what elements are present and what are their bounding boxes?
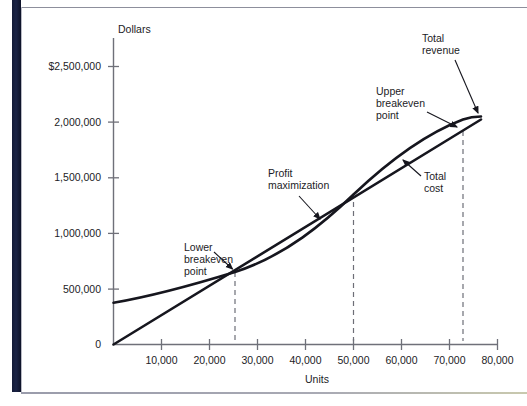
profit-max-leader	[299, 196, 320, 219]
breakeven-chart: $2,500,000 2,000,000 1,500,000 1,000,000…	[0, 0, 527, 406]
reference-lines	[235, 131, 463, 341]
upper-breakeven-line3: point	[376, 109, 399, 121]
series-total-cost	[114, 117, 482, 303]
y-tick-label-1500000: 1,500,000	[54, 171, 101, 183]
annotation-upper-breakeven: Upper breakeven point	[376, 85, 457, 127]
annotation-profit-maximization: Profit maximization	[268, 167, 329, 219]
y-tick-label-500000: 500,000	[63, 283, 101, 295]
x-tick-label-60000: 60,000	[385, 354, 417, 366]
annotation-total-revenue: Total revenue	[422, 32, 478, 113]
total-revenue-leader	[455, 60, 478, 113]
lower-breakeven-line3: point	[184, 265, 207, 277]
total-revenue-line1: Total	[422, 32, 444, 44]
y-tick-labels: $2,500,000 2,000,000 1,500,000 1,000,000…	[48, 60, 101, 350]
x-axis-title: Units	[305, 373, 329, 385]
x-tick-label-10000: 10,000	[145, 354, 177, 366]
y-tick-label-1000000: 1,000,000	[54, 227, 101, 239]
total-cost-line1: Total	[424, 170, 446, 182]
x-tick-labels: 10,000 20,000 30,000 40,000 50,000 60,00…	[145, 354, 513, 366]
x-tick-label-40000: 40,000	[289, 354, 321, 366]
y-tick-label-0: 0	[95, 338, 101, 350]
total-revenue-line2: revenue	[422, 44, 460, 56]
x-tick-label-20000: 20,000	[193, 354, 225, 366]
y-tick-label-2500000: $2,500,000	[48, 60, 101, 72]
annotation-total-cost: Total cost	[403, 160, 446, 194]
y-tick-label-2000000: 2,000,000	[54, 116, 101, 128]
annotation-lower-breakeven: Lower breakeven point	[184, 241, 233, 277]
x-tick-label-80000: 80,000	[481, 354, 513, 366]
upper-breakeven-leader	[427, 112, 457, 127]
total-cost-line2: cost	[424, 182, 443, 194]
x-tick-label-70000: 70,000	[433, 354, 465, 366]
upper-breakeven-line2: breakeven	[376, 97, 425, 109]
x-tick-label-30000: 30,000	[241, 354, 273, 366]
profit-max-line1: Profit	[268, 167, 293, 179]
upper-breakeven-line1: Upper	[376, 85, 405, 97]
profit-max-line2: maximization	[268, 179, 329, 191]
y-axis-title: Dollars	[118, 23, 151, 35]
lower-breakeven-line1: Lower	[184, 241, 213, 253]
x-tick-label-50000: 50,000	[337, 354, 369, 366]
page-canvas: $2,500,000 2,000,000 1,500,000 1,000,000…	[0, 0, 527, 406]
series-total-revenue	[114, 120, 482, 345]
